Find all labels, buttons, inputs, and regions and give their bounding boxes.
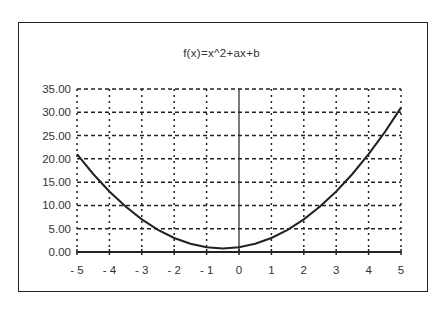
x-tick-label: - 3 bbox=[135, 264, 148, 276]
y-tick-label: 30.00 bbox=[42, 106, 71, 118]
axes bbox=[77, 89, 401, 255]
x-tick-label: - 4 bbox=[103, 264, 117, 276]
x-tick-label: - 5 bbox=[70, 264, 83, 276]
x-tick-label: - 1 bbox=[200, 264, 213, 276]
y-tick-label: 15.00 bbox=[42, 176, 71, 188]
x-tick-label: 0 bbox=[236, 264, 242, 276]
x-tick-label: 4 bbox=[365, 264, 372, 276]
y-tick-label: 0.00 bbox=[49, 246, 71, 258]
x-axis-labels: - 5- 4- 3- 2- 1012345 bbox=[70, 264, 404, 276]
y-axis-labels: 0.005.0010.0015.0020.0025.0030.0035.00 bbox=[42, 83, 71, 258]
plot-area: 0.005.0010.0015.0020.0025.0030.0035.00 -… bbox=[0, 0, 443, 310]
y-tick-label: 5.00 bbox=[49, 223, 71, 235]
y-tick-label: 35.00 bbox=[42, 83, 71, 95]
y-tick-label: 25.00 bbox=[42, 130, 71, 142]
x-tick-label: 5 bbox=[398, 264, 404, 276]
x-tick-label: - 2 bbox=[167, 264, 180, 276]
x-tick-label: 2 bbox=[301, 264, 307, 276]
y-tick-label: 20.00 bbox=[42, 153, 71, 165]
x-tick-label: 3 bbox=[333, 264, 339, 276]
x-tick-label: 1 bbox=[268, 264, 274, 276]
y-tick-label: 10.00 bbox=[42, 199, 71, 211]
